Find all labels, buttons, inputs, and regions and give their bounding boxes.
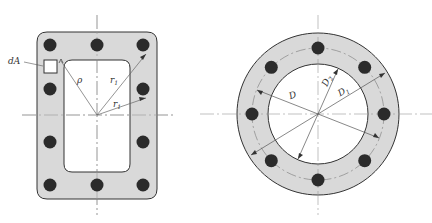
bolt xyxy=(44,83,57,96)
label-rho: ρ xyxy=(76,75,83,85)
bolt xyxy=(265,61,278,74)
bolt xyxy=(137,136,150,149)
label-dA: dA xyxy=(8,56,21,66)
bolt xyxy=(91,39,104,52)
arrowhead-icon xyxy=(298,153,303,159)
label-D1: D1 xyxy=(335,84,351,100)
label-D2: D2 xyxy=(319,73,334,89)
rectangular-section: dA ρ r1 r1 xyxy=(8,15,175,215)
bolt xyxy=(91,179,104,192)
bolt xyxy=(358,154,371,167)
annular-section: D D2 D1 xyxy=(200,15,432,215)
rho-line xyxy=(61,61,97,115)
bolt xyxy=(358,61,371,74)
diagram-canvas: dA ρ r1 r1 xyxy=(0,0,432,223)
label-r1-lower: r1 xyxy=(113,99,121,110)
bolt xyxy=(246,108,259,121)
bolt xyxy=(378,108,391,121)
area-element-dA xyxy=(44,60,57,73)
arrowhead-icon xyxy=(333,69,338,75)
bolt xyxy=(137,39,150,52)
bolt xyxy=(137,179,150,192)
bolt xyxy=(137,83,150,96)
label-D: D xyxy=(287,89,298,101)
label-r1-upper: r1 xyxy=(110,75,118,86)
bolt xyxy=(265,154,278,167)
bolt xyxy=(44,39,57,52)
bolt xyxy=(312,174,325,187)
bolt xyxy=(44,136,57,149)
bolt xyxy=(312,42,325,55)
bolt xyxy=(44,179,57,192)
